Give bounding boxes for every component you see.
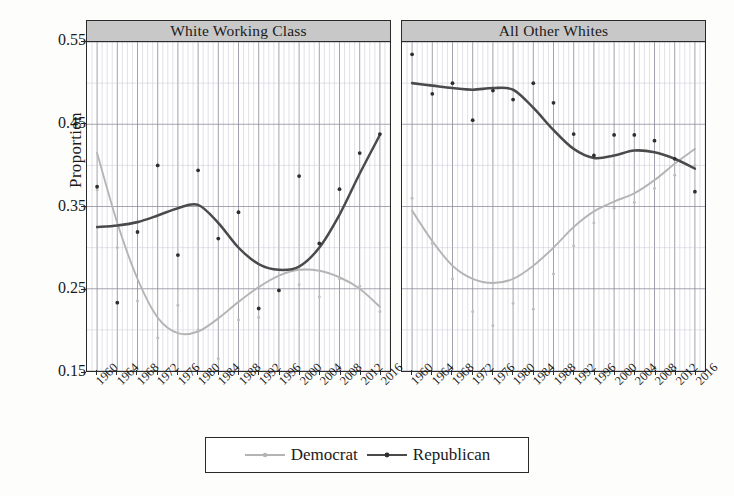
y-axis-tick-label: 0.35 — [8, 197, 86, 215]
y-axis: Proportion 0.550.450.350.250.15 — [0, 0, 86, 496]
x-axis-tick-mark — [157, 370, 158, 375]
x-axis-tick-mark — [573, 370, 574, 375]
x-axis-tick-mark — [411, 370, 412, 375]
panel-white-working-class: White Working Class — [86, 20, 391, 372]
republican-line-swatch-icon — [366, 449, 408, 461]
legend-label-republican: Republican — [413, 445, 490, 465]
x-axis-tick-mark — [258, 370, 259, 375]
legend-item-republican: Republican — [366, 445, 490, 465]
x-axis-tick-mark — [594, 370, 595, 375]
x-axis-tick-mark — [553, 370, 554, 375]
x-axis-tick-mark — [512, 370, 513, 375]
y-axis-tick-label: 0.25 — [8, 279, 86, 297]
legend-item-democrat: Democrat — [244, 445, 358, 465]
panel-title: All Other Whites — [401, 20, 706, 42]
x-axis-tick-mark — [96, 370, 97, 375]
x-axis-tick-mark — [360, 370, 361, 375]
panel-title: White Working Class — [86, 20, 391, 42]
x-axis-tick-mark — [299, 370, 300, 375]
x-axis-tick-mark — [451, 370, 452, 375]
x-axis-tick-mark — [238, 370, 239, 375]
legend-label-democrat: Democrat — [291, 445, 358, 465]
x-axis-tick-mark — [431, 370, 432, 375]
panel-plot-area — [86, 41, 391, 372]
x-axis-tick-mark — [380, 370, 381, 375]
x-axis-tick-mark — [472, 370, 473, 375]
x-axis-tick-mark — [197, 370, 198, 375]
x-axis-tick-mark — [655, 370, 656, 375]
y-axis-tick-label: 0.45 — [8, 114, 86, 132]
x-axis-tick-mark — [279, 370, 280, 375]
x-axis-tick-mark — [319, 370, 320, 375]
x-axis-tick-mark — [675, 370, 676, 375]
chart-figure: Proportion 0.550.450.350.250.15 White Wo… — [0, 0, 734, 496]
x-axis-labels-right: 1960196419681972197619801984198819921996… — [401, 374, 706, 434]
x-axis-tick-mark — [116, 370, 117, 375]
legend: Democrat Republican — [205, 437, 529, 473]
x-axis-tick-mark — [533, 370, 534, 375]
x-axis-tick-mark — [177, 370, 178, 375]
x-axis-tick-mark — [614, 370, 615, 375]
x-axis-tick-mark — [634, 370, 635, 375]
x-axis-tick-mark — [136, 370, 137, 375]
panel-plot-area — [401, 41, 706, 372]
democrat-line-swatch-icon — [244, 449, 286, 461]
y-axis-tick-label: 0.15 — [8, 362, 86, 380]
x-axis-tick-mark — [218, 370, 219, 375]
x-axis-tick-mark — [492, 370, 493, 375]
x-axis-tick-mark — [695, 370, 696, 375]
x-axis-tick-mark — [340, 370, 341, 375]
panel-all-other-whites: All Other Whites — [401, 20, 706, 372]
x-axis-labels-left: 1960196419681972197619801984198819921996… — [86, 374, 391, 434]
y-axis-tick-label: 0.55 — [8, 31, 86, 49]
